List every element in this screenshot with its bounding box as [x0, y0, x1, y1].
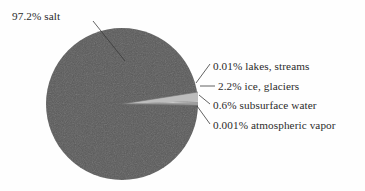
slice-label-lakes-streams: 0.01% lakes, streams — [213, 61, 309, 72]
slice-label-subsurface-water: 0.6% subsurface water — [213, 100, 317, 111]
water-distribution-pie-chart — [0, 0, 365, 191]
leader-line-lakes — [196, 64, 210, 83]
leader-line-vapor — [197, 106, 210, 124]
slice-label-atmospheric-vapor: 0.001% atmospheric vapor — [213, 120, 336, 131]
slice-label-salt: 97.2% salt — [12, 11, 60, 22]
leader-line-subsurface — [199, 95, 210, 104]
slice-label-ice-glaciers: 2.2% ice, glaciers — [218, 81, 299, 92]
pie-chart-figure: 97.2% salt 0.01% lakes, streams 2.2% ice… — [0, 0, 365, 191]
